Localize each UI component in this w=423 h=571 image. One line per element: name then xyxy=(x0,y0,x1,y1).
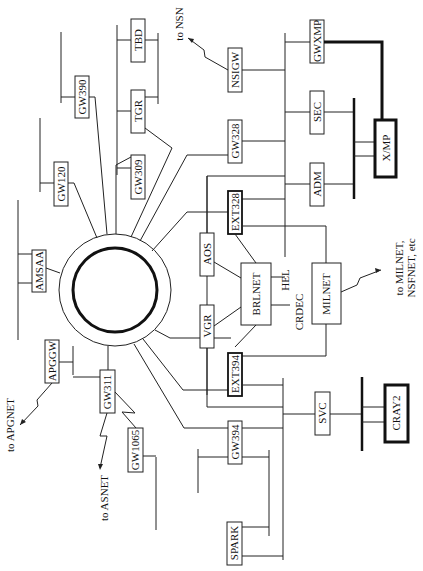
network-diagram: AMSAA GW120 GW390 TBD TGR GW309 to NSN xyxy=(0,0,423,571)
node-label: TGR xyxy=(132,99,144,122)
node-label: AOS xyxy=(201,243,213,265)
link-to-nsn: to NSN xyxy=(173,7,228,70)
external-link-label: to MILNET, xyxy=(393,240,405,295)
link-to-milnet: to MILNET, NSFNET, etc xyxy=(341,238,417,297)
node-label: EXT328 xyxy=(229,193,241,231)
node-gw309[interactable]: GW309 xyxy=(131,155,145,199)
node-label: GW328 xyxy=(229,123,241,158)
node-cray2[interactable]: CRAY2 xyxy=(385,385,408,442)
node-label: GW309 xyxy=(132,159,144,194)
node-label: GW120 xyxy=(55,166,67,201)
node-label: SPARK xyxy=(228,526,240,561)
node-amsaa[interactable]: AMSAA xyxy=(32,250,46,292)
link-to-apgnet: to APGNET xyxy=(4,383,52,452)
node-apggw[interactable]: APGGW xyxy=(45,340,59,383)
node-label: GW394 xyxy=(229,424,241,459)
external-link-label: to NSN xyxy=(173,7,185,40)
node-label: GWXMP xyxy=(311,20,323,62)
node-gw390[interactable]: GW390 xyxy=(75,76,89,118)
ring-outer xyxy=(59,234,171,346)
node-hel-label[interactable]: HEL xyxy=(279,269,291,291)
node-label: GW390 xyxy=(76,79,88,114)
node-label: AMSAA xyxy=(33,251,45,291)
external-link-label: to APGNET xyxy=(4,398,16,452)
node-tgr[interactable]: TGR xyxy=(131,90,145,133)
node-label: SVC xyxy=(316,402,328,423)
link-to-asnet: to ASNET xyxy=(98,413,110,521)
node-label: SEC xyxy=(311,102,323,122)
node-label: GW1065 xyxy=(129,429,141,470)
node-label: BRLNET xyxy=(250,272,262,315)
node-milnet[interactable]: MILNET xyxy=(312,263,341,324)
node-label: ADM xyxy=(311,171,323,197)
node-label: CRAY2 xyxy=(390,395,402,430)
node-gw394[interactable]: GW394 xyxy=(228,421,242,464)
node-gw120[interactable]: GW120 xyxy=(54,162,68,206)
node-spark[interactable]: SPARK xyxy=(227,522,242,565)
node-label: APGGW xyxy=(46,340,58,381)
node-brlnet[interactable]: BRLNET xyxy=(241,263,271,325)
node-adm[interactable]: ADM xyxy=(310,163,324,206)
node-crdec-label[interactable]: CRDEC xyxy=(293,294,305,331)
node-nsigw[interactable]: NSIGW xyxy=(228,48,242,92)
node-svc[interactable]: SVC xyxy=(315,392,330,435)
node-aos[interactable]: AOS xyxy=(200,233,214,276)
node-label: NSIGW xyxy=(229,51,241,88)
ring-inner xyxy=(73,248,157,332)
node-gw311[interactable]: GW311 xyxy=(100,370,115,413)
node-label: EXT394 xyxy=(229,355,241,393)
node-tbd[interactable]: TBD xyxy=(131,19,145,62)
node-sec[interactable]: SEC xyxy=(310,91,324,134)
node-label: TBD xyxy=(132,29,144,51)
node-label: VGR xyxy=(201,314,213,338)
node-label: GW311 xyxy=(101,375,113,409)
node-gwxmp[interactable]: GWXMP xyxy=(310,20,324,63)
external-link-label: to ASNET xyxy=(98,475,110,521)
node-label: MILNET xyxy=(320,273,332,315)
node-xmp[interactable]: X/MP xyxy=(375,120,396,177)
node-gw328[interactable]: GW328 xyxy=(228,120,242,163)
node-ext394[interactable]: EXT394 xyxy=(228,353,242,396)
node-vgr[interactable]: VGR xyxy=(200,305,214,348)
node-label: X/MP xyxy=(380,135,392,162)
external-link-label: NSFNET, etc xyxy=(405,238,417,297)
ring-network xyxy=(59,234,171,346)
node-ext328[interactable]: EXT328 xyxy=(228,191,242,234)
node-gw1065[interactable]: GW1065 xyxy=(128,428,143,472)
